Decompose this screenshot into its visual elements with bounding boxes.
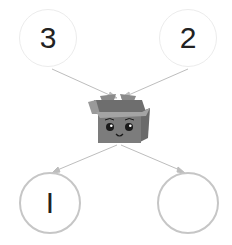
- output-circle-bottom-right[interactable]: [157, 172, 219, 234]
- smiling-box-icon: [86, 90, 152, 148]
- input-value: 2: [180, 23, 197, 53]
- link-bottom-left: [55, 145, 117, 171]
- output-circle-bottom-left[interactable]: I: [19, 172, 81, 234]
- input-circle-top-right: 2: [159, 9, 217, 67]
- input-circle-top-left: 3: [19, 9, 77, 67]
- input-value: 3: [40, 23, 57, 53]
- link-bottom-right: [121, 145, 182, 171]
- output-value: I: [46, 188, 54, 218]
